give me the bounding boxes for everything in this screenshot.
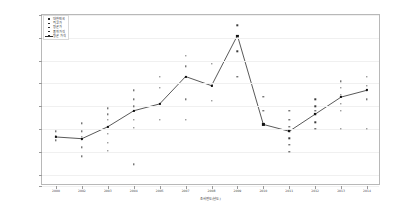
x-axis-tick-label: 2009 [233,190,241,193]
y-axis-tick [39,15,42,16]
x-axis-tick-label: 2011 [285,190,293,193]
data-point [185,55,186,56]
mean-data-point [340,96,342,98]
data-point [340,103,341,104]
data-point [237,25,238,26]
data-point [314,99,315,100]
data-point [107,119,108,120]
chart-legend: 대한민국최고가평균가중위가격평균 가격 [43,15,69,40]
data-point [366,128,367,129]
mean-data-point [314,113,316,115]
y-axis-tick [39,186,42,187]
y-axis-tick [39,38,42,39]
legend-item[interactable]: 평균 가격 [45,34,66,38]
data-point [340,87,341,88]
data-point [289,110,290,111]
y-axis-tick [39,106,42,107]
data-point [237,51,238,52]
data-point [366,85,367,86]
mean-data-point [288,130,290,132]
mean-data-point [184,75,186,77]
gridline [42,129,379,130]
x-axis-title: 조사연도(년도) [41,197,380,201]
data-point [314,110,315,111]
y-axis-tick [39,129,42,130]
gridline [42,186,379,187]
data-point [289,126,290,127]
data-point [289,119,290,120]
gridline [42,152,379,153]
x-axis-tick-label: 2012 [311,190,319,193]
x-axis-tick-label: 2003 [104,190,112,193]
data-point [314,121,315,122]
data-point [55,140,56,141]
x-axis-tick-label: 2013 [337,190,345,193]
legend-label: 평균 가격 [53,34,66,38]
data-point [340,128,341,129]
data-point [81,131,82,132]
data-point [340,110,341,111]
y-axis-tick [39,83,42,84]
data-point [366,76,367,77]
gridline [42,175,379,176]
y-axis-tick [39,61,42,62]
data-point [81,147,82,148]
data-point [289,151,290,152]
gridline [42,106,379,107]
legend-marker-icon [45,34,53,38]
y-axis-tick [39,175,42,176]
mean-data-point [159,103,161,105]
mean-data-point [366,89,368,91]
data-point [133,127,134,128]
data-point [366,99,367,100]
chart-figure: 가격 (천 원) 조사연도(년도) 2500002300002100001900… [0,0,406,208]
data-point [211,100,212,101]
data-point [133,119,134,120]
data-point [289,144,290,145]
data-point [133,90,134,91]
x-axis-tick-label: 2007 [182,190,190,193]
x-axis-tick-label: 2014 [363,190,371,193]
data-point [159,119,160,120]
mean-data-point [81,138,83,140]
x-axis-tick-label: 2000 [52,190,60,193]
data-point [237,76,238,77]
data-point [263,110,264,111]
data-point [159,87,160,88]
data-point [289,137,290,138]
data-point [340,80,341,81]
data-point [81,123,82,124]
data-point [185,66,186,67]
data-point [159,76,160,77]
mean-data-point [107,126,109,128]
mean-data-point [210,85,212,87]
mean-data-point [262,123,264,125]
gridline [42,15,379,16]
x-axis-tick-label: 2005 [156,190,164,193]
data-point [107,113,108,114]
data-point [133,164,134,165]
gridline [42,61,379,62]
data-point [81,156,82,157]
data-point [263,96,264,97]
data-point [107,108,108,109]
data-point [107,150,108,151]
plot-area: 2500002300002100001900001700001500001300… [41,14,380,185]
data-point [314,128,315,129]
mean-data-point [133,110,135,112]
data-point [133,99,134,100]
x-axis-tick-label: 2002 [78,190,86,193]
data-point [185,99,186,100]
mean-data-point [55,136,57,138]
data-point [55,131,56,132]
gridline [42,38,379,39]
mean-data-point [236,34,238,36]
y-axis-tick [39,152,42,153]
data-point [314,105,315,106]
x-axis-tick-label: 2008 [208,190,216,193]
data-point [185,119,186,120]
data-point [211,63,212,64]
data-point [107,133,108,134]
x-axis-tick-label: 2010 [259,190,267,193]
data-point [133,105,134,106]
